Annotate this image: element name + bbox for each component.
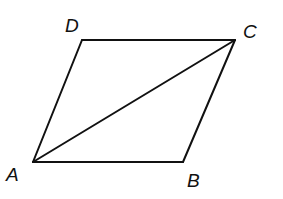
vertex-label-c: C xyxy=(243,21,257,42)
edge-bc xyxy=(183,40,235,162)
vertex-label-b: B xyxy=(187,170,200,191)
vertex-label-a: A xyxy=(5,164,19,185)
edge-da xyxy=(33,40,82,162)
vertex-label-d: D xyxy=(65,15,79,36)
diagonal-ac xyxy=(33,40,235,162)
parallelogram-diagram: A B C D xyxy=(0,0,283,199)
